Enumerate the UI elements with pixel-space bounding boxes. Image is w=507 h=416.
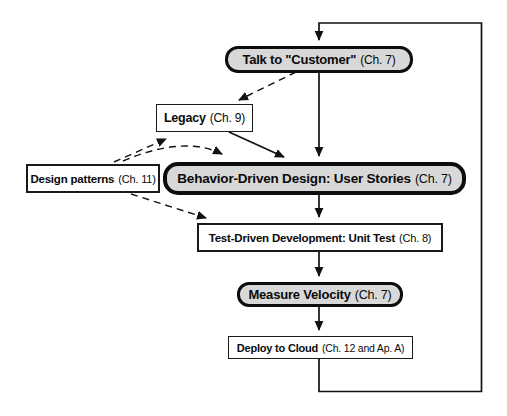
node-test-driven-development-label: Test-Driven Development: Unit Test bbox=[209, 232, 395, 244]
edge-design-patterns-to-bdd bbox=[123, 146, 222, 161]
node-test-driven-development-chapter: (Ch. 8) bbox=[399, 232, 431, 244]
node-behavior-driven-design-label: Behavior-Driven Design: User Stories bbox=[177, 171, 411, 186]
node-design-patterns: Design patterns (Ch. 11) bbox=[26, 164, 160, 193]
node-deploy-to-cloud: Deploy to Cloud (Ch. 12 and Ap. A) bbox=[228, 336, 413, 359]
node-talk-to-customer-chapter: (Ch. 7) bbox=[360, 53, 395, 67]
node-behavior-driven-design-chapter: (Ch. 7) bbox=[415, 172, 452, 186]
node-behavior-driven-design: Behavior-Driven Design: User Stories (Ch… bbox=[163, 162, 466, 195]
node-measure-velocity-label: Measure Velocity bbox=[248, 287, 350, 302]
node-legacy: Legacy (Ch. 9) bbox=[156, 104, 253, 132]
node-measure-velocity: Measure Velocity (Ch. 7) bbox=[237, 282, 403, 307]
node-deploy-to-cloud-label: Deploy to Cloud bbox=[237, 342, 318, 354]
flowchart-canvas: Talk to "Customer" (Ch. 7) Legacy (Ch. 9… bbox=[0, 0, 507, 416]
edge-design-patterns-to-tdd bbox=[131, 194, 206, 218]
edge-legacy-to-bdd bbox=[229, 132, 284, 157]
node-design-patterns-label: Design patterns bbox=[30, 173, 114, 185]
node-legacy-chapter: (Ch. 9) bbox=[210, 111, 245, 125]
node-deploy-to-cloud-chapter: (Ch. 12 and Ap. A) bbox=[322, 342, 404, 354]
edge-design-patterns-to-legacy bbox=[114, 139, 166, 162]
node-design-patterns-chapter: (Ch. 11) bbox=[118, 173, 155, 185]
node-legacy-label: Legacy bbox=[164, 111, 206, 125]
node-measure-velocity-chapter: (Ch. 7) bbox=[355, 288, 392, 302]
node-talk-to-customer-label: Talk to "Customer" bbox=[242, 52, 356, 67]
node-test-driven-development: Test-Driven Development: Unit Test (Ch. … bbox=[197, 223, 443, 252]
edge-talk-customer-to-legacy bbox=[239, 72, 296, 100]
node-talk-to-customer: Talk to "Customer" (Ch. 7) bbox=[225, 46, 413, 73]
